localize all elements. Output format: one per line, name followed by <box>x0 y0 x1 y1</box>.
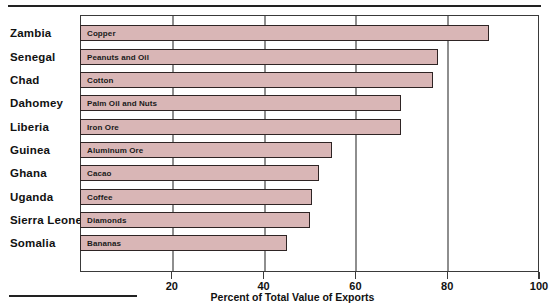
bar-row: Diamonds <box>80 212 539 228</box>
x-tick-mark-80 <box>447 272 448 279</box>
bar-commodity-label: Aluminum Ore <box>87 146 143 155</box>
country-label-senegal: Senegal <box>10 51 56 63</box>
bar-row: Coffee <box>80 189 539 205</box>
bar-row: Iron Ore <box>80 119 539 135</box>
country-label-zambia: Zambia <box>10 27 51 39</box>
bar-row: Cotton <box>80 72 539 88</box>
country-label-sierra-leone: Sierra Leone <box>10 214 82 226</box>
x-tick-mark-20 <box>171 272 172 279</box>
footnote-rule <box>9 295 137 297</box>
country-label-uganda: Uganda <box>10 191 53 203</box>
country-label-somalia: Somalia <box>10 237 56 249</box>
bar-liberia: Iron Ore <box>80 119 401 135</box>
bar-ghana: Cacao <box>80 165 319 181</box>
bar-uganda: Coffee <box>80 189 312 205</box>
bar-sierra-leone: Diamonds <box>80 212 310 228</box>
bar-commodity-label: Copper <box>87 29 116 38</box>
x-tick-mark-40 <box>263 272 264 279</box>
bar-zambia: Copper <box>80 25 489 41</box>
country-axis-labels: ZambiaSenegalChadDahomeyLiberiaGuineaGha… <box>0 0 78 306</box>
bar-commodity-label: Peanuts and Oil <box>87 52 149 61</box>
bar-senegal: Peanuts and Oil <box>80 49 438 65</box>
bar-row: Cacao <box>80 165 539 181</box>
bar-row: Aluminum Ore <box>80 142 539 158</box>
country-label-dahomey: Dahomey <box>10 97 63 109</box>
bar-row: Palm Oil and Nuts <box>80 95 539 111</box>
bar-commodity-label: Coffee <box>87 192 113 201</box>
bar-commodity-label: Diamonds <box>87 216 126 225</box>
bar-commodity-label: Palm Oil and Nuts <box>87 99 157 108</box>
country-label-chad: Chad <box>10 74 40 86</box>
bar-chad: Cotton <box>80 72 433 88</box>
country-label-guinea: Guinea <box>10 144 50 156</box>
bar-row: Peanuts and Oil <box>80 49 539 65</box>
x-tick-mark-60 <box>355 272 356 279</box>
export-commodity-bar-chart: ZambiaSenegalChadDahomeyLiberiaGuineaGha… <box>0 0 549 306</box>
bar-row: Bananas <box>80 235 539 251</box>
country-label-ghana: Ghana <box>10 167 47 179</box>
bar-commodity-label: Iron Ore <box>87 122 119 131</box>
bar-row: Copper <box>80 25 539 41</box>
country-label-liberia: Liberia <box>10 121 49 133</box>
bar-commodity-label: Cacao <box>87 169 112 178</box>
bar-commodity-label: Cotton <box>87 75 113 84</box>
bar-guinea: Aluminum Ore <box>80 142 332 158</box>
x-axis-title: Percent of Total Value of Exports <box>0 291 549 303</box>
bar-dahomey: Palm Oil and Nuts <box>80 95 401 111</box>
x-tick-mark-100 <box>538 272 539 279</box>
bar-commodity-label: Bananas <box>87 239 121 248</box>
bar-somalia: Bananas <box>80 235 287 251</box>
